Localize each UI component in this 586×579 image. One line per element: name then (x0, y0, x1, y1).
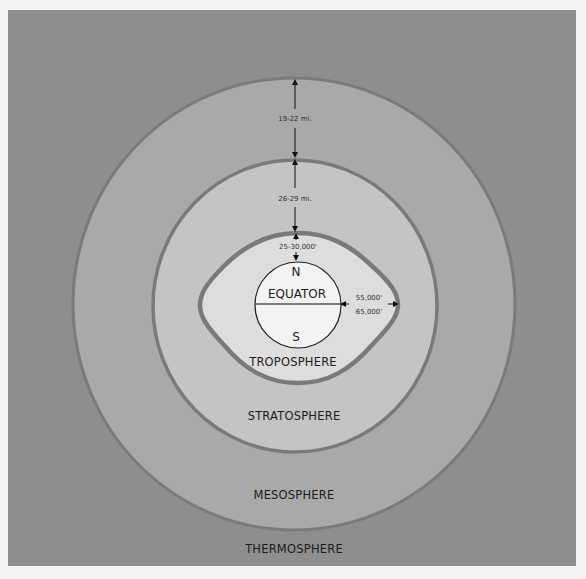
atmosphere-layers-diagram: N EQUATOR S 19-22 mi. 26-29 mi. 25-30,00… (0, 0, 586, 579)
troposphere-label: TROPOSPHERE (248, 355, 337, 369)
troposphere-polar-height-label: 25-30,000' (279, 243, 317, 251)
stratosphere-label: STRATOSPHERE (248, 409, 341, 423)
mesosphere-thickness-label: 19-22 mi. (278, 115, 312, 123)
thermosphere-label: THERMOSPHERE (244, 542, 343, 556)
mesosphere-label: MESOSPHERE (254, 488, 335, 502)
equatorial-height-high-label: 65,000' (356, 308, 382, 316)
north-pole-label: N (292, 265, 301, 279)
equator-label: EQUATOR (268, 287, 326, 301)
equatorial-height-low-label: 55,000' (356, 294, 382, 302)
south-pole-label: S (292, 330, 300, 344)
earth-globe: N EQUATOR S (255, 262, 341, 348)
stratosphere-thickness-label: 26-29 mi. (278, 195, 312, 203)
